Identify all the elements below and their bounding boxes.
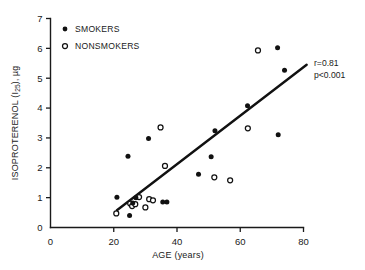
data-point — [150, 198, 155, 203]
data-point — [228, 178, 233, 183]
data-point — [130, 201, 135, 206]
data-point — [127, 213, 132, 218]
legend-marker-nonsmokers-icon — [63, 44, 68, 49]
y-axis-title: ISOPROTERENOL (I25), µg — [10, 66, 21, 181]
data-point — [245, 103, 250, 108]
x-tick-label: 40 — [172, 236, 183, 247]
y-tick-label: 4 — [37, 102, 42, 113]
y-axis-title-subscript: 25 — [14, 84, 21, 92]
data-point — [164, 200, 169, 205]
data-point — [162, 163, 167, 168]
data-point — [255, 48, 260, 53]
legend: SMOKERS NONSMOKERS — [63, 24, 140, 51]
data-point — [209, 154, 214, 159]
x-axis-title: AGE (years) — [152, 250, 204, 260]
data-point — [114, 211, 119, 216]
regression-line — [117, 65, 307, 210]
data-point — [158, 125, 163, 130]
scatter-plot-figure: 01234567 020406080 AGE (years) ISOPROTER… — [0, 0, 365, 270]
x-tick-label: 20 — [108, 236, 119, 247]
annotation-r-value: r=0.81 — [314, 58, 339, 68]
data-point — [282, 68, 287, 73]
chart-canvas: 01234567 020406080 AGE (years) ISOPROTER… — [0, 0, 365, 270]
data-points-nonsmokers — [114, 48, 261, 216]
data-point — [114, 195, 119, 200]
y-tick-label: 0 — [37, 222, 42, 233]
x-tick-group: 020406080 — [48, 228, 309, 247]
x-tick-label: 0 — [48, 236, 53, 247]
data-point — [143, 205, 148, 210]
annotation-p-value: p<0.001 — [314, 70, 346, 80]
y-tick-label: 2 — [37, 162, 42, 173]
data-point — [275, 45, 280, 50]
x-axis: 020406080 — [48, 228, 309, 247]
data-point — [196, 172, 201, 177]
data-point — [245, 126, 250, 131]
y-tick-group: 01234567 — [37, 13, 50, 233]
legend-marker-smokers-icon — [63, 27, 68, 32]
y-tick-label: 7 — [37, 13, 42, 24]
data-point — [276, 132, 281, 137]
y-axis-title-tail: ), µg — [10, 66, 20, 84]
data-point — [133, 195, 138, 200]
data-point — [212, 128, 217, 133]
statistics-annotation: r=0.81 p<0.001 — [314, 58, 346, 80]
data-point — [125, 154, 130, 159]
y-axis-title-main: ISOPROTERENOL (I — [10, 92, 20, 180]
legend-label-smokers: SMOKERS — [75, 24, 120, 34]
y-tick-label: 1 — [37, 192, 42, 203]
data-point — [212, 175, 217, 180]
y-axis: 01234567 — [37, 13, 50, 233]
data-point — [146, 136, 151, 141]
x-tick-label: 60 — [235, 236, 246, 247]
legend-label-nonsmokers: NONSMOKERS — [75, 41, 140, 51]
x-tick-label: 80 — [298, 236, 309, 247]
y-tick-label: 6 — [37, 43, 42, 54]
y-tick-label: 3 — [37, 132, 42, 143]
y-tick-label: 5 — [37, 73, 42, 84]
